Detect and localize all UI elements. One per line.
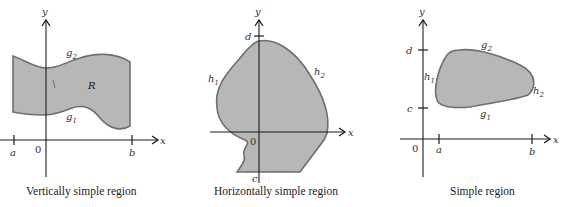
region-label-r: R [87,80,96,91]
tick-label-a: a [10,147,16,158]
curve-label-h1: h1 [424,71,435,85]
caption-simple: Simple region [450,185,515,198]
origin-label: 0 [412,143,418,154]
panel-vertically-simple: y x 0 a b g2 g1 R Vertically simple regi… [0,6,166,198]
curve-label-g2: g2 [66,47,77,61]
curve-label-h2: h2 [314,66,325,80]
tick-label-b: b [129,147,135,158]
tick-label-c: c [407,103,413,114]
curve-label-h1: h1 [208,73,219,87]
tick-label-b: b [529,146,535,157]
curve-label-g2: g2 [481,39,492,53]
y-axis-label: y [254,6,261,17]
panel-simple: y x 0 d c a b g2 g1 h1 h2 Simple region [400,6,559,198]
caption-horizontally-simple: Horizontally simple region [214,185,338,198]
y-axis-label: y [41,6,48,17]
curve-label-g1: g1 [480,108,491,122]
origin-label: 0 [35,144,41,155]
tick-label-a: a [436,144,442,155]
origin-label: 0 [250,136,256,147]
x-axis-label: x [160,135,166,146]
x-axis-label: x [348,127,354,138]
region-simple [436,50,534,108]
y-axis-label: y [418,6,425,17]
curve-label-h2: h2 [533,85,544,99]
panel-horizontally-simple: y x 0 d c h1 h2 Horizontally simple regi… [208,6,354,198]
regions-figure: y x 0 a b g2 g1 R Vertically simple regi… [0,0,565,207]
region-horizontal [217,41,328,172]
x-axis-label: x [553,134,559,145]
curve-label-g1: g1 [66,111,77,125]
tick-label-d: d [406,45,412,56]
tick-label-c: c [252,173,258,184]
caption-vertically-simple: Vertically simple region [26,185,137,198]
tick-label-d: d [245,31,251,42]
